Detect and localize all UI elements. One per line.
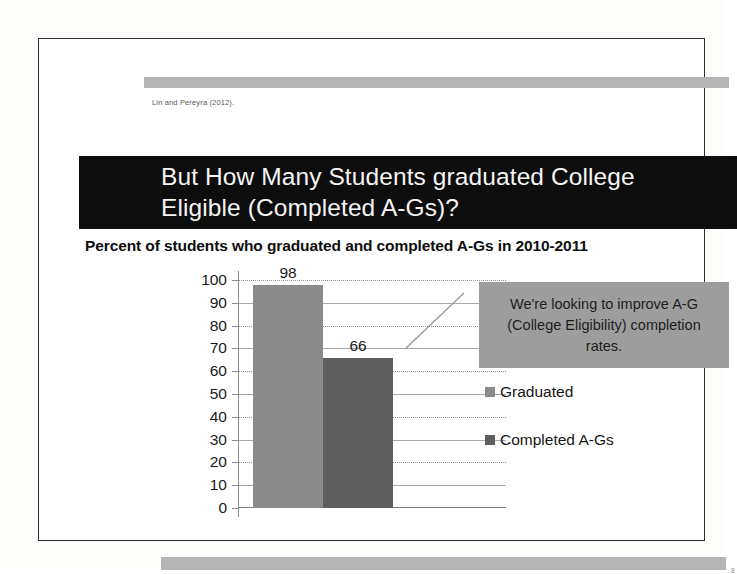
y-axis-tick-label: 90: [210, 294, 227, 312]
y-axis-tickmark: [232, 348, 239, 349]
y-axis-tickmark: [232, 440, 239, 441]
y-axis-tickmark: [232, 508, 239, 509]
y-axis-tick-label: 50: [210, 385, 227, 403]
y-axis-tickmark: [232, 394, 239, 395]
legend-swatch-icon: [485, 387, 495, 397]
y-axis-tick-label: 70: [210, 339, 227, 357]
bar-value-label: 66: [349, 337, 366, 355]
decorative-band-bottom: [161, 557, 726, 570]
y-axis-tickmark: [232, 280, 239, 281]
callout-text: We're looking to improve A-G (College El…: [494, 294, 714, 357]
legend-label: Graduated: [500, 383, 573, 401]
citation-text: Lin and Pereyra (2012).: [152, 98, 234, 107]
chart-subtitle: Percent of students who graduated and co…: [85, 237, 735, 255]
y-axis-tickmark: [232, 371, 239, 372]
y-axis-tick-label: 0: [218, 499, 227, 517]
y-axis-tickmark: [232, 417, 239, 418]
legend-item: Graduated: [485, 383, 725, 401]
bar-chart: 1009080706050403020100 9866: [181, 271, 481, 531]
y-axis-tickmark: [232, 303, 239, 304]
legend-item: Completed A-Gs: [485, 431, 725, 449]
y-axis-tickmark: [232, 326, 239, 327]
bar: [323, 358, 393, 508]
plot-area: 9866: [239, 280, 423, 508]
callout-box: We're looking to improve A-G (College El…: [479, 282, 729, 368]
slide-frame: Lin and Pereyra (2012). But How Many Stu…: [38, 38, 705, 541]
y-axis-tickmark: [232, 462, 239, 463]
bar: [253, 285, 323, 508]
legend-label: Completed A-Gs: [500, 431, 614, 449]
legend-swatch-icon: [485, 435, 495, 445]
bar-value-label: 98: [279, 264, 296, 282]
y-axis-tick-label: 80: [210, 317, 227, 335]
chart-legend: GraduatedCompleted A-Gs: [485, 383, 725, 479]
y-axis-tick-label: 30: [210, 431, 227, 449]
y-axis-tick-label: 100: [201, 271, 227, 289]
title-banner: But How Many Students graduated College …: [79, 156, 737, 229]
page-title: But How Many Students graduated College …: [161, 161, 721, 223]
page-number: 8: [731, 567, 735, 574]
y-axis-tick-label: 40: [210, 408, 227, 426]
y-axis-tick-label: 60: [210, 362, 227, 380]
y-axis-tick-labels: 1009080706050403020100: [181, 271, 233, 531]
decorative-band-top: [144, 77, 729, 88]
y-axis-tickmark: [232, 485, 239, 486]
y-axis-tick-label: 10: [210, 476, 227, 494]
y-axis-tick-label: 20: [210, 453, 227, 471]
